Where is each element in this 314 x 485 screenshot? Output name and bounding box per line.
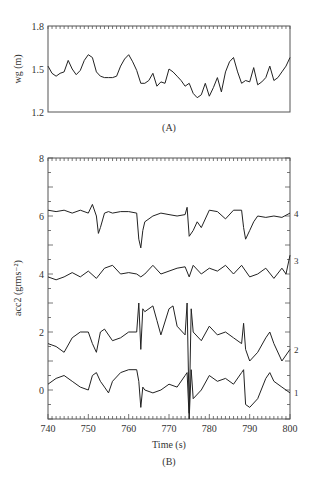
x-tick-label: 740: [41, 423, 56, 434]
x-axis-label: Time (s): [152, 439, 186, 451]
x-tick-label: 770: [162, 423, 177, 434]
panel-b: 8 6 4 2 0 740 750 760 770 780 790 800 ac…: [12, 153, 299, 468]
series-1-line: [48, 370, 290, 419]
x-tick-label: 750: [81, 423, 96, 434]
y-tick-label: 2: [39, 327, 44, 338]
y-tick-label: 8: [39, 153, 44, 164]
y-tick-label: 6: [39, 211, 44, 222]
x-tick-label: 790: [242, 423, 257, 434]
y-tick-label: 4: [39, 269, 44, 280]
y-tick-label: 1.2: [32, 107, 45, 118]
series-4-line: [48, 204, 290, 248]
panel-b-frame: [48, 158, 290, 419]
panel-caption: (B): [162, 456, 175, 468]
y-axis-label: wg (m): [12, 54, 24, 83]
x-tick-label: 800: [283, 423, 298, 434]
x-tick-label: 780: [202, 423, 217, 434]
y-tick-label: 0: [39, 385, 44, 396]
series-label-3: 3: [294, 256, 299, 266]
x-tick-label: 760: [121, 423, 136, 434]
figure: 1.8 1.5 1.2 wg (m) (A) 8 6 4 2 0 740 750…: [0, 0, 314, 485]
y-tick-label: 1.8: [32, 21, 45, 32]
wg-line: [48, 55, 290, 98]
panel-caption: (A): [162, 122, 176, 134]
series-label-2: 2: [294, 345, 299, 355]
panel-b-ticks: [48, 158, 290, 419]
panel-a: 1.8 1.5 1.2 wg (m) (A): [12, 21, 290, 134]
series-3-line: [48, 255, 290, 280]
series-2-line: [48, 303, 290, 413]
y-axis-label: acc2 (grms⁻²): [12, 260, 24, 316]
series-label-4: 4: [294, 209, 299, 219]
panel-a-ticks: [48, 26, 290, 29]
series-label-1: 1: [294, 388, 299, 398]
y-tick-label: 1.5: [32, 64, 45, 75]
